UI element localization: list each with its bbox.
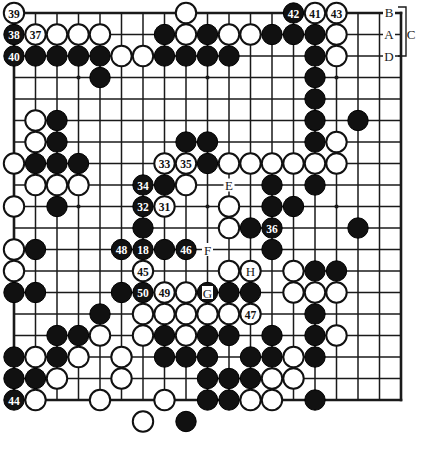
stone-white[interactable] <box>283 368 303 388</box>
stone-white[interactable] <box>25 132 45 152</box>
stone-black[interactable]: 34 <box>133 175 153 195</box>
stone-black[interactable] <box>262 325 282 345</box>
stone-black[interactable] <box>305 325 325 345</box>
stone-black[interactable] <box>197 46 217 66</box>
stone-black[interactable] <box>25 282 45 302</box>
stone-white[interactable]: 49 <box>154 282 174 302</box>
stone-black[interactable]: 32 <box>133 196 153 216</box>
stone-white[interactable] <box>219 261 239 281</box>
stone-black[interactable] <box>197 347 217 367</box>
stone-black[interactable] <box>305 89 325 109</box>
stone-white[interactable] <box>326 153 346 173</box>
stone-white[interactable] <box>283 153 303 173</box>
stone-white[interactable] <box>283 282 303 302</box>
stone-white[interactable] <box>25 347 45 367</box>
stone-white[interactable] <box>133 411 153 431</box>
stone-black[interactable] <box>154 24 174 44</box>
stone-black[interactable] <box>305 67 325 87</box>
stone-black[interactable] <box>305 110 325 130</box>
stone-white[interactable] <box>4 196 24 216</box>
stone-black[interactable] <box>305 261 325 281</box>
stone-black[interactable] <box>176 347 196 367</box>
stone-white[interactable] <box>68 347 88 367</box>
stone-white[interactable] <box>176 3 196 23</box>
stone-white[interactable] <box>68 24 88 44</box>
stone-black[interactable] <box>154 325 174 345</box>
stone-black[interactable]: 18 <box>133 239 153 259</box>
stone-black[interactable] <box>219 390 239 410</box>
stone-black[interactable]: 38 <box>4 24 24 44</box>
stone-white[interactable] <box>47 24 67 44</box>
stone-white[interactable] <box>154 304 174 324</box>
stone-black[interactable] <box>262 175 282 195</box>
stone-white[interactable]: 41 <box>305 3 325 23</box>
stone-white[interactable] <box>326 132 346 152</box>
stone-black[interactable] <box>133 218 153 238</box>
stone-white[interactable] <box>262 153 282 173</box>
stone-black[interactable] <box>305 390 325 410</box>
stone-black[interactable] <box>305 347 325 367</box>
stone-black[interactable]: 44 <box>4 390 24 410</box>
stone-black[interactable] <box>305 132 325 152</box>
stone-black[interactable] <box>262 239 282 259</box>
stone-black[interactable] <box>90 67 110 87</box>
stone-black[interactable] <box>47 347 67 367</box>
stone-black[interactable] <box>154 46 174 66</box>
stone-black[interactable] <box>176 46 196 66</box>
stone-white[interactable] <box>133 325 153 345</box>
stone-black[interactable] <box>326 261 346 281</box>
stone-white[interactable] <box>47 175 67 195</box>
stone-black[interactable] <box>47 325 67 345</box>
stone-white[interactable] <box>111 347 131 367</box>
stone-white[interactable] <box>262 368 282 388</box>
stone-white[interactable] <box>283 347 303 367</box>
stone-black[interactable] <box>219 46 239 66</box>
stone-white[interactable] <box>4 153 24 173</box>
stone-white[interactable] <box>25 110 45 130</box>
stone-black[interactable] <box>47 132 67 152</box>
stone-black[interactable]: 40 <box>4 46 24 66</box>
stone-black[interactable] <box>283 24 303 44</box>
stone-black[interactable] <box>240 347 260 367</box>
stone-black[interactable] <box>240 218 260 238</box>
stone-white[interactable]: 33 <box>154 153 174 173</box>
stone-black[interactable] <box>25 239 45 259</box>
stone-white[interactable] <box>219 218 239 238</box>
stone-white[interactable] <box>25 390 45 410</box>
stone-black[interactable] <box>283 196 303 216</box>
stone-white[interactable] <box>176 282 196 302</box>
stone-black[interactable]: 46 <box>176 239 196 259</box>
stone-white[interactable] <box>240 390 260 410</box>
stone-black[interactable]: 50 <box>133 282 153 302</box>
stone-black[interactable] <box>305 46 325 66</box>
stone-white[interactable] <box>219 153 239 173</box>
stone-black[interactable] <box>68 325 88 345</box>
stone-white[interactable]: 39 <box>4 3 24 23</box>
stone-black[interactable] <box>154 347 174 367</box>
stone-white[interactable]: 43 <box>326 3 346 23</box>
stone-black[interactable] <box>4 368 24 388</box>
stone-white[interactable] <box>133 46 153 66</box>
stone-white[interactable]: 37 <box>25 24 45 44</box>
stone-black[interactable] <box>176 411 196 431</box>
stone-black[interactable] <box>47 196 67 216</box>
stone-black[interactable] <box>197 132 217 152</box>
stone-black[interactable] <box>25 153 45 173</box>
stone-white[interactable] <box>305 282 325 302</box>
stone-black[interactable] <box>262 196 282 216</box>
stone-white[interactable] <box>219 24 239 44</box>
stone-black[interactable] <box>305 304 325 324</box>
stone-white[interactable] <box>47 368 67 388</box>
stone-white[interactable] <box>111 368 131 388</box>
stone-black[interactable] <box>25 368 45 388</box>
stone-white[interactable]: 31 <box>154 196 174 216</box>
stone-black[interactable] <box>47 110 67 130</box>
stone-white[interactable] <box>176 325 196 345</box>
stone-white[interactable] <box>326 325 346 345</box>
stone-black[interactable] <box>68 46 88 66</box>
stone-black[interactable] <box>4 347 24 367</box>
stone-black[interactable] <box>197 325 217 345</box>
stone-white[interactable] <box>68 175 88 195</box>
stone-black[interactable] <box>219 325 239 345</box>
stone-white[interactable] <box>326 46 346 66</box>
